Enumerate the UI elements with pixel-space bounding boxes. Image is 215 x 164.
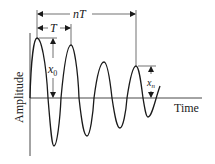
y-axis-label: Amplitude bbox=[12, 72, 26, 123]
nT-label: nT bbox=[73, 7, 87, 21]
x-axis-label: Time bbox=[174, 101, 199, 115]
x0-label: x0 bbox=[47, 62, 57, 78]
xn-label: xn bbox=[146, 77, 155, 90]
T-label: T bbox=[50, 21, 58, 35]
damped-oscillation-diagram: nT T x0 xn Time Amplitude bbox=[0, 0, 215, 164]
oscillation-curve bbox=[30, 38, 160, 146]
